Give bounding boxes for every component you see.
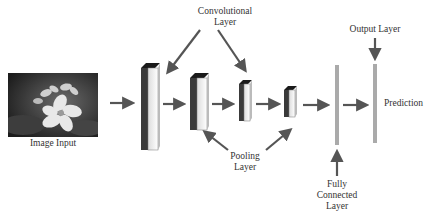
conv-block-2 (239, 80, 252, 121)
arrow-to-conv-2-icon (218, 30, 245, 70)
pool-block-1 (190, 73, 209, 130)
arrow-to-pool-1-icon (205, 132, 228, 150)
pool-block-2 (284, 86, 297, 117)
output-bar (373, 64, 377, 143)
diagram-graphics (0, 0, 430, 219)
arrow-to-pool-2-icon (266, 130, 290, 150)
arrow-to-conv-1-icon (168, 30, 200, 72)
fully-connected-bar (335, 65, 339, 145)
conv-block-1 (141, 63, 160, 150)
